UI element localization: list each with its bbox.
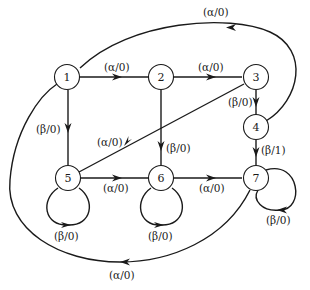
edge-label: (β/0) [228,96,252,108]
node-3: 3 [244,65,269,90]
node-7: 7 [244,166,269,191]
node-label: 6 [158,172,165,185]
edge-5-6: (α/0) [81,175,148,195]
node-5: 5 [56,166,81,191]
node-label: 5 [65,172,72,185]
edge-label: (α/0) [109,269,135,281]
edge-label: (β/0) [54,230,78,242]
edge-label: (β/0) [166,142,190,154]
edge-label: (β/0) [36,123,60,135]
self-loop-6: (β/0) [141,188,183,242]
node-label: 1 [64,71,71,84]
node-label: 4 [253,121,260,134]
edge-label: (α/0) [104,61,130,73]
node-4: 4 [244,115,269,140]
edge-4-7: (β/1) [253,140,286,165]
node-label: 7 [253,172,260,185]
edge-label: (β/0) [266,214,290,226]
node-label: 3 [253,71,260,84]
self-loop-5: (β/0) [47,188,90,242]
node-label: 2 [158,71,165,84]
node-1: 1 [55,65,80,90]
edge-label: (α/0) [199,182,225,194]
edge-2-3: (α/0) [174,61,242,81]
node-2: 2 [149,65,174,90]
arrow-icon [226,24,236,31]
edge-label: (α/0) [97,136,123,148]
edge-label: (β/1) [261,144,285,156]
edge-6-7: (α/0) [174,175,242,195]
edge-label: (β/0) [148,230,172,242]
arrow-icon [277,207,287,214]
edge-label: (α/0) [198,61,224,73]
state-diagram: (α/0) (α/0) (α/0) (β/0) (β/0) (α/0) (β/0… [0,0,310,290]
edge-label: (α/0) [203,6,229,18]
edge-1-5: (β/0) [36,90,72,165]
edge-1-2: (α/0) [80,61,148,81]
node-6: 6 [149,166,174,191]
edge-label: (α/0) [103,182,129,194]
edge-3-4: (β/0) [228,90,260,115]
